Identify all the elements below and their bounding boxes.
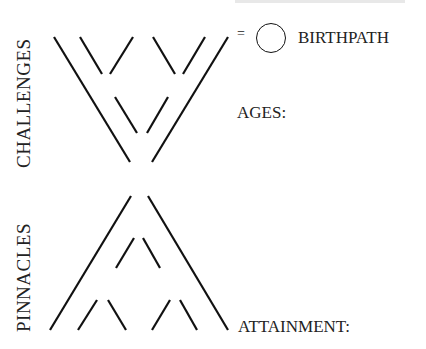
challenge-1-left-line	[80, 37, 102, 74]
challenge-2-left-line	[153, 37, 175, 74]
pinnacle-2-left-line	[152, 300, 170, 330]
pinnacle-2-right-line	[180, 300, 197, 330]
pinnacle-3-left-line	[116, 238, 134, 268]
challenges-structure	[54, 37, 228, 162]
challenge-3-right-line	[147, 97, 168, 133]
attainment-label: ATTAINMENT:	[238, 317, 350, 337]
pinnacle-3-right-line	[143, 238, 160, 268]
pinnacle-1-right-line	[108, 300, 126, 330]
challenge-3-left-line	[115, 97, 137, 133]
pinnacle-1-left-line	[78, 300, 97, 330]
empty-circle-icon	[256, 23, 286, 53]
pinnacles-outer-right-line	[148, 196, 228, 330]
numerology-diagram	[0, 0, 426, 349]
ages-label: AGES:	[237, 103, 286, 123]
challenge-2-right-line	[183, 37, 205, 74]
birthpath-label: BIRTHPATH	[298, 28, 389, 48]
equals-sign: =	[237, 26, 245, 42]
challenge-1-right-line	[110, 37, 133, 74]
pinnacles-structure	[50, 196, 228, 330]
